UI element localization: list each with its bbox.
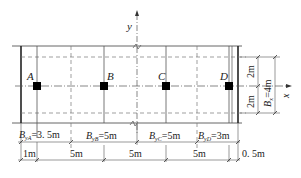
- point-square-B: [100, 82, 108, 90]
- right-dim-lower-label: 2m: [245, 95, 256, 108]
- point-square-A: [33, 82, 41, 90]
- y-axis-label: y: [126, 20, 132, 32]
- spacing-label-5: 0. 5m: [242, 148, 265, 159]
- spacing-label-3: 5m: [129, 148, 142, 159]
- right-dim-total-label: Bx=4m: [262, 79, 275, 107]
- influence-width-C: ByC=5m: [149, 130, 180, 142]
- x-axis-label: x: [280, 93, 291, 99]
- spacing-label-1: 1m: [23, 148, 36, 159]
- influence-width-A: ByA=3. 5m: [19, 129, 60, 141]
- influence-width-D: ByD=3m: [198, 130, 230, 142]
- right-dim-upper-label: 2m: [245, 65, 256, 78]
- x-axis-arrow-icon: [286, 84, 292, 88]
- point-label-A: A: [26, 70, 34, 82]
- svg-text:Bx=4m: Bx=4m: [262, 79, 275, 107]
- point-label-D: D: [219, 70, 228, 82]
- point-square-C: [162, 82, 170, 90]
- spacing-label-4: 5m: [193, 148, 206, 159]
- point-label-B: B: [107, 70, 114, 82]
- foundation-plan-diagram: y x A B C D 2m 2m Bx=4m ByA=3. 5m ByB=5m…: [0, 0, 301, 178]
- point-label-C: C: [158, 70, 166, 82]
- spacing-label-2: 5m: [70, 148, 83, 159]
- point-square-D: [225, 82, 233, 90]
- y-axis-arrow-icon: [135, 10, 139, 16]
- influence-width-B: ByB=5m: [86, 130, 117, 142]
